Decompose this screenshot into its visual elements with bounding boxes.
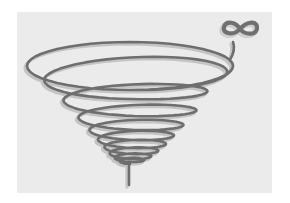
infinity-icon	[222, 23, 257, 36]
spiral-funnel-diagram	[0, 0, 290, 203]
diagram-canvas: ∞	[0, 0, 290, 203]
